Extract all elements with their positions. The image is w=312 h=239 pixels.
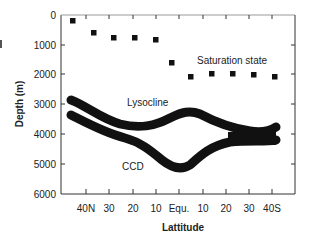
y-tick-label: 4000	[34, 129, 57, 140]
x-tick-label: 40S	[263, 203, 281, 214]
y-tick-label: 1000	[34, 40, 57, 51]
x-tick-label: 30	[243, 203, 255, 214]
y-tick-label: 2000	[34, 69, 57, 80]
saturation-state-points	[70, 18, 278, 80]
x-tick-label: 30	[103, 203, 115, 214]
y-tick-label: 5000	[34, 159, 57, 170]
y-tick-label: 6000	[34, 189, 57, 200]
band-merge	[228, 130, 276, 145]
x-tick-labels: 40N 30 20 10 Equ. 10 20 30 40S	[77, 203, 281, 214]
x-tick-label: 10	[150, 203, 162, 214]
x-tick-label: 20	[220, 203, 232, 214]
x-tick-label: 10	[197, 203, 209, 214]
ccd-label: CCD	[122, 161, 144, 172]
depth-latitude-chart: 0 1000 2000 3000 4000 5000 6000 40N 30 2…	[0, 0, 312, 239]
x-tick-label: Equ.	[169, 203, 190, 214]
y-tick-labels: 0 1000 2000 3000 4000 5000 6000	[34, 10, 57, 200]
y-tick-label: 0	[50, 10, 56, 21]
x-axis-title: Lattitude	[162, 222, 205, 233]
y-tick-label: 3000	[34, 99, 57, 110]
y-axis-title: Depth (m)	[14, 81, 25, 128]
lysocline-label: Lysocline	[127, 97, 169, 108]
saturation-state-label: Saturation state	[197, 55, 267, 66]
x-tick-label: 40N	[77, 203, 95, 214]
edge-fragment	[0, 40, 2, 48]
x-tick-label: 20	[127, 203, 139, 214]
